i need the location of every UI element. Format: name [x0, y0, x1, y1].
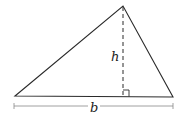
right-angle-marker	[123, 90, 129, 97]
height-label: h	[111, 49, 119, 64]
triangle-shape	[15, 6, 173, 97]
base-label: b	[90, 100, 98, 115]
triangle-diagram: h b	[0, 0, 183, 117]
